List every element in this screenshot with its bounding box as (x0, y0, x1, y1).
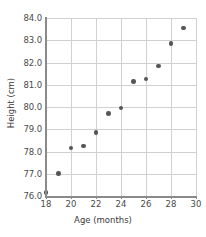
y-axis-tick-label: 83.0 (23, 35, 42, 45)
x-axis-tick-mark (46, 196, 47, 199)
data-point (144, 77, 149, 82)
y-axis-tick-label: 81.0 (23, 80, 42, 90)
y-axis-tick-label: 79.0 (23, 124, 42, 134)
y-axis-tick-label: 77.0 (23, 169, 42, 179)
data-point (156, 64, 161, 69)
x-axis-tick-mark (171, 196, 172, 199)
x-axis-title: Age (months) (0, 215, 206, 225)
data-point (119, 106, 124, 111)
x-axis-tick-label: 26 (141, 199, 152, 209)
data-point (131, 79, 136, 84)
y-axis-tick-label: 76.0 (23, 191, 42, 201)
data-point (181, 26, 186, 31)
data-point (169, 41, 174, 46)
x-axis-tick-mark (121, 196, 122, 199)
y-axis-tick-label: 78.0 (23, 147, 42, 157)
plot-area (46, 18, 196, 196)
data-point (69, 146, 74, 151)
data-point (106, 111, 111, 116)
gridline-vertical (146, 18, 147, 196)
gridline-vertical (196, 18, 197, 196)
x-axis-tick-mark (196, 196, 197, 199)
data-point (81, 144, 86, 149)
scatter-plot-figure: 76.077.078.079.080.081.082.083.084.0 Hei… (0, 0, 206, 237)
data-point (56, 171, 61, 176)
x-axis-tick-label: 18 (41, 199, 52, 209)
data-point (94, 130, 99, 135)
x-axis-tick-mark (146, 196, 147, 199)
x-axis-tick-label: 20 (66, 199, 77, 209)
x-axis-tick-label: 30 (191, 199, 202, 209)
x-axis-tick-label: 22 (91, 199, 102, 209)
x-axis-tick-mark (96, 196, 97, 199)
x-axis-tick-label: 28 (166, 199, 177, 209)
y-axis-spine (45, 17, 47, 197)
y-axis-title: Height (cm) (6, 53, 16, 153)
y-axis-tick-label: 84.0 (23, 13, 42, 23)
gridline-vertical (96, 18, 97, 196)
y-axis-tick-label: 80.0 (23, 102, 42, 112)
x-axis-tick-label: 24 (116, 199, 127, 209)
x-axis-tick-mark (71, 196, 72, 199)
gridline-vertical (71, 18, 72, 196)
y-axis-tick-label: 82.0 (23, 58, 42, 68)
